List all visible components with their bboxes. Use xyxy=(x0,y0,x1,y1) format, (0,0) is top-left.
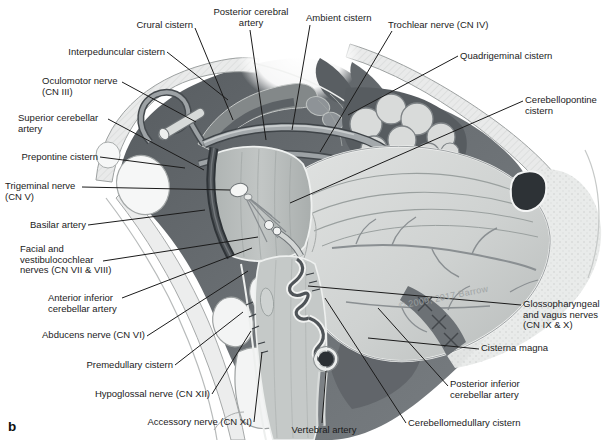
label-basilar-artery: Basilar artery xyxy=(30,220,86,231)
label-prepontine-cistern: Prepontine cistern xyxy=(21,152,98,163)
label-cisterna-magna: Cisterna magna xyxy=(481,343,548,354)
label-trigeminal-nerve: Trigeminal nerve (CN V) xyxy=(5,181,75,202)
label-posterior-inferior-cerebellar-artery: Posterior inferior cerebellar artery xyxy=(450,379,520,400)
label-facial-vestibulocochlear-nerves: Facial and vestibulocochlear nerves (CN … xyxy=(20,244,111,276)
label-ambient-cistern: Ambient cistern xyxy=(306,13,371,24)
label-anterior-inferior-cerebellar-artery: Anterior inferior cerebellar artery xyxy=(48,293,117,314)
label-glossopharyngeal-vagus-nerves: Glossopharyngeal and vagus nerves (CN IX… xyxy=(523,299,600,331)
label-cerebellopontine-cistern: Cerebellopontine cistern xyxy=(525,95,597,116)
label-premedullary-cistern: Premedullary cistern xyxy=(86,360,173,371)
figure-panel: Crural cistern Posterior cerebral artery… xyxy=(0,0,614,440)
label-superior-cerebellar-artery: Superior cerebellar artery xyxy=(18,113,98,134)
label-trochlear-nerve: Trochlear nerve (CN IV) xyxy=(388,20,488,31)
label-cerebellomedullary-cistern: Cerebellomedullary cistern xyxy=(408,418,520,429)
label-vertebral-artery: Vertebral artery xyxy=(288,425,360,436)
label-interpeduncular-cistern: Interpeduncular cistern xyxy=(68,47,165,58)
label-crural-cistern: Crural cistern xyxy=(137,20,194,31)
label-posterior-cerebral-artery: Posterior cerebral artery xyxy=(207,7,295,28)
label-accessory-nerve: Accessory nerve (CN XI) xyxy=(147,417,252,428)
label-hypoglossal-nerve: Hypoglossal nerve (CN XII) xyxy=(95,389,210,400)
label-quadrigeminal-cistern: Quadrigeminal cistern xyxy=(460,51,552,62)
label-abducens-nerve: Abducens nerve (CN VI) xyxy=(42,330,145,341)
anatomy-illustration xyxy=(0,0,614,440)
panel-letter: b xyxy=(8,419,16,434)
label-oculomotor-nerve: Oculomotor nerve (CN III) xyxy=(42,76,118,97)
